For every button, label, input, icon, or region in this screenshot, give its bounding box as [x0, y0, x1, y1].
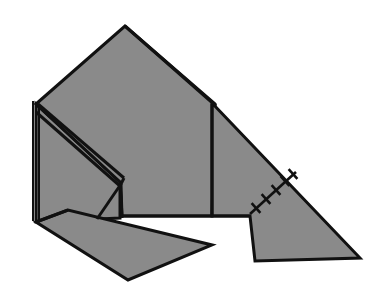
crease-vertical-tab	[121, 184, 122, 218]
figure-canvas	[0, 0, 380, 303]
